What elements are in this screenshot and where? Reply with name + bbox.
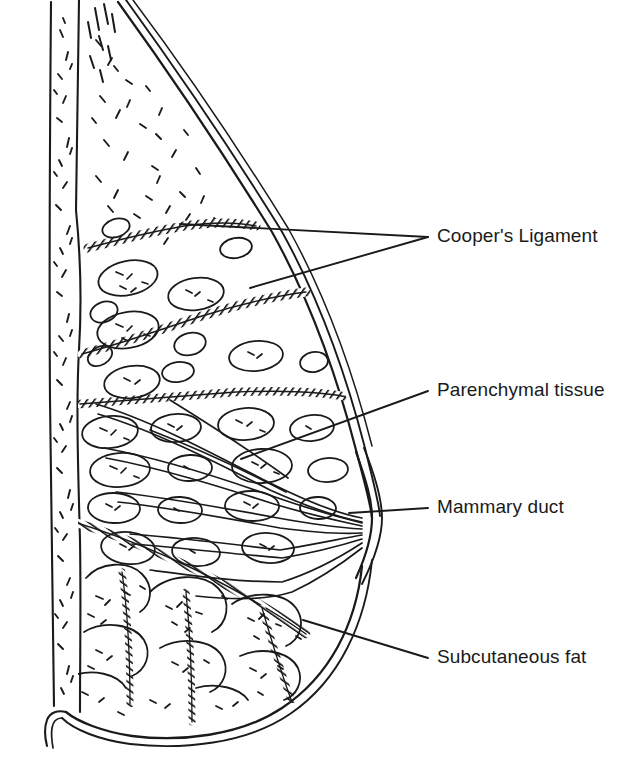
leader-mammary: [349, 508, 428, 513]
upper-fat-texture: [92, 40, 219, 244]
label-subcutaneous-fat: Subcutaneous fat: [437, 647, 587, 666]
leader-parenchymal: [241, 391, 428, 459]
label-parenchymal-tissue: Parenchymal tissue: [437, 380, 605, 399]
label-mammary-duct: Mammary duct: [437, 497, 564, 516]
label-coopers-ligament: Cooper's Ligament: [437, 226, 598, 245]
leader-coopers-1: [180, 224, 428, 237]
leader-subcutaneous: [303, 620, 428, 658]
inframammary-fold: [45, 560, 372, 748]
leader-coopers-2: [250, 237, 428, 288]
chest-wall: [50, 0, 81, 712]
